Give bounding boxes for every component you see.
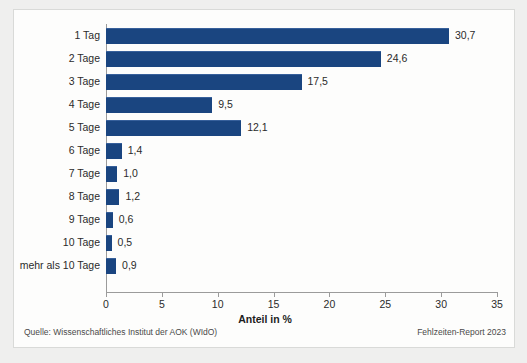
bar-value-label: 24,6 (387, 51, 407, 66)
chart-figure: 1 Tag30,72 Tage24,63 Tage17,54 Tage9,55 … (13, 9, 515, 348)
x-axis-title: Anteil in % (14, 313, 516, 325)
x-axis-tick (385, 292, 386, 297)
category-label: 2 Tage (14, 47, 100, 70)
bar-track: 0,5 (106, 231, 516, 254)
bar (106, 189, 119, 205)
bar-value-label: 12,1 (247, 120, 267, 135)
bar (106, 212, 113, 228)
bar (106, 143, 122, 159)
category-label: 10 Tage (14, 231, 100, 254)
x-axis-tick-label: 20 (309, 298, 349, 310)
bar (106, 28, 449, 44)
bar (106, 166, 117, 182)
bar-row: 8 Tage1,2 (14, 185, 516, 208)
bar-row: 4 Tage9,5 (14, 93, 516, 116)
bar-row: 6 Tage1,4 (14, 139, 516, 162)
bar (106, 51, 381, 67)
bar-row: 2 Tage24,6 (14, 47, 516, 70)
x-axis-tick-label: 15 (254, 298, 294, 310)
x-axis-tick (441, 292, 442, 297)
bar-value-label: 17,5 (308, 74, 328, 89)
bar-track: 9,5 (106, 93, 516, 116)
bar-value-label: 0,6 (119, 212, 134, 227)
bar (106, 97, 212, 113)
category-label: mehr als 10 Tage (14, 254, 100, 277)
category-label: 7 Tage (14, 162, 100, 185)
bar-track: 0,6 (106, 208, 516, 231)
bar-track: 1,4 (106, 139, 516, 162)
bar (106, 120, 241, 136)
bar-track: 12,1 (106, 116, 516, 139)
bar (106, 235, 112, 251)
x-axis-tick-label: 10 (198, 298, 238, 310)
bar-track: 1,2 (106, 185, 516, 208)
bar-value-label: 1,2 (125, 189, 140, 204)
bar-value-label: 1,0 (123, 166, 138, 181)
x-axis-tick (274, 292, 275, 297)
plot-area: 1 Tag30,72 Tage24,63 Tage17,54 Tage9,55 … (14, 10, 516, 300)
bar-row: 9 Tage0,6 (14, 208, 516, 231)
x-axis-line (106, 292, 497, 293)
bar-value-label: 30,7 (455, 28, 475, 43)
chart-footer: Quelle: Wissenschaftliches Institut der … (14, 327, 516, 341)
x-axis-tick-label: 5 (142, 298, 182, 310)
x-axis-tick-label: 0 (86, 298, 126, 310)
x-axis-tick (218, 292, 219, 297)
bar-row: 3 Tage17,5 (14, 70, 516, 93)
bar-track: 0,9 (106, 254, 516, 277)
bar-track: 30,7 (106, 24, 516, 47)
bar (106, 74, 302, 90)
bar-track: 17,5 (106, 70, 516, 93)
x-axis-tick (497, 292, 498, 297)
footer-source-text: Quelle: Wissenschaftliches Institut der … (24, 327, 217, 337)
bar-row: 10 Tage0,5 (14, 231, 516, 254)
x-axis-tick (162, 292, 163, 297)
bar-row: 7 Tage1,0 (14, 162, 516, 185)
footer-report-text: Fehlzeiten-Report 2023 (417, 327, 506, 337)
category-label: 8 Tage (14, 185, 100, 208)
x-axis-tick-label: 35 (477, 298, 517, 310)
bar-value-label: 0,5 (118, 235, 133, 250)
bar-value-label: 0,9 (122, 258, 137, 273)
category-label: 4 Tage (14, 93, 100, 116)
bar (106, 258, 116, 274)
bar-row: 1 Tag30,7 (14, 24, 516, 47)
x-axis-tick (329, 292, 330, 297)
category-label: 9 Tage (14, 208, 100, 231)
bar-track: 1,0 (106, 162, 516, 185)
x-axis-tick-label: 30 (421, 298, 461, 310)
bar-row: 5 Tage12,1 (14, 116, 516, 139)
x-axis-tick-label: 25 (365, 298, 405, 310)
category-label: 1 Tag (14, 24, 100, 47)
bar-value-label: 1,4 (128, 143, 143, 158)
category-label: 3 Tage (14, 70, 100, 93)
bar-track: 24,6 (106, 47, 516, 70)
bar-row: mehr als 10 Tage0,9 (14, 254, 516, 277)
category-label: 6 Tage (14, 139, 100, 162)
category-label: 5 Tage (14, 116, 100, 139)
x-axis-tick (106, 292, 107, 297)
bar-value-label: 9,5 (218, 97, 233, 112)
